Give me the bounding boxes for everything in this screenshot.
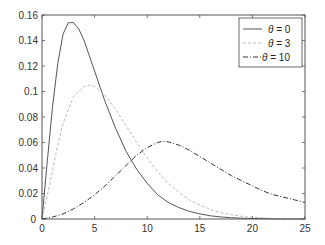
y-axis-tick-labels: 00.020.040.060.080.10.120.140.16: [19, 10, 39, 225]
legend: θ = 0 θ = 3 θ = 10: [239, 18, 302, 67]
x-tick-label: 10: [142, 223, 154, 234]
y-tick-label: 0.02: [19, 188, 39, 199]
x-tick-label: 5: [92, 223, 98, 234]
x-tick-label: 15: [194, 223, 206, 234]
x-tick-label: 0: [39, 223, 45, 234]
legend-label: θ = 10: [262, 52, 290, 63]
chart-canvas: 0510152025 00.020.040.060.080.10.120.140…: [0, 0, 325, 245]
x-axis-tick-labels: 0510152025: [39, 223, 311, 234]
y-tick-label: 0.12: [19, 61, 39, 72]
y-tick-label: 0.16: [19, 10, 39, 21]
legend-label: θ = 3: [268, 38, 291, 49]
y-tick-label: 0.08: [19, 112, 39, 123]
x-tick-label: 20: [247, 223, 259, 234]
y-tick-label: 0.14: [19, 35, 39, 46]
legend-label: θ = 0: [268, 24, 291, 35]
y-tick-label: 0: [30, 214, 36, 225]
y-tick-label: 0.1: [24, 86, 38, 97]
y-tick-label: 0.04: [19, 163, 39, 174]
y-tick-label: 0.06: [19, 137, 39, 148]
x-tick-label: 25: [299, 223, 311, 234]
